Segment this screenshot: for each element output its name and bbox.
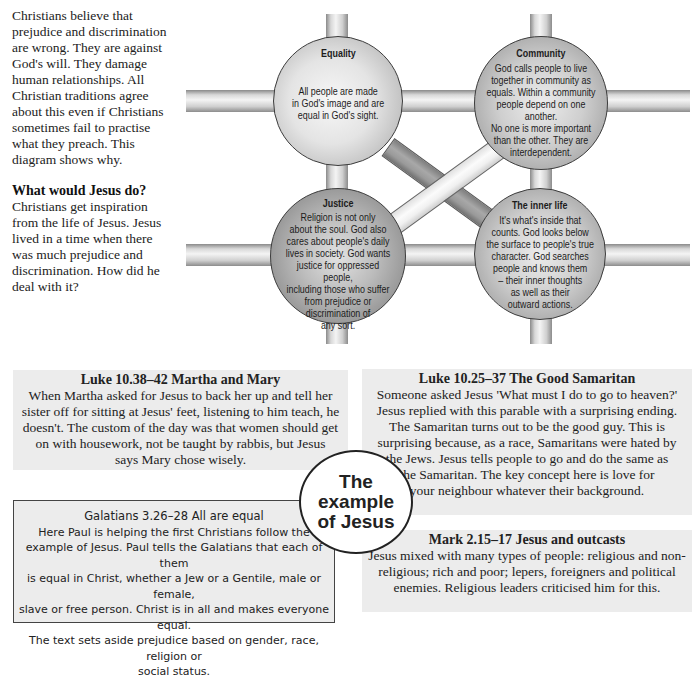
sphere-text: God calls people to live together in com… <box>485 62 597 158</box>
sphere-title: Equality <box>321 47 356 59</box>
box-heading: Galatians 3.26–28 All are equal <box>14 509 334 525</box>
sphere-text: Religion is not only about the soul. God… <box>281 211 395 331</box>
sphere-title: The inner life <box>512 199 568 211</box>
box-text: Jesus mixed with many types of people: r… <box>362 548 692 596</box>
box-galatians: Galatians 3.26–28 All are equal Here Pau… <box>13 500 335 623</box>
sphere-inner-life: The inner life It's what's inside that c… <box>474 188 606 320</box>
box-text: When Martha asked for Jesus to back her … <box>13 388 348 468</box>
box-heading: Luke 10.25–37 The Good Samaritan <box>362 371 692 387</box>
values-diagram: Equality All people are made in God's im… <box>0 0 693 360</box>
box-heading: Mark 2.15–17 Jesus and outcasts <box>362 532 692 548</box>
badge-label: The example of Jesus <box>317 472 394 532</box>
box-text: Here Paul is helping the first Christian… <box>14 525 334 679</box>
sphere-text: All people are made in God's image and a… <box>292 85 384 121</box>
box-heading: Luke 10.38–42 Martha and Mary <box>13 372 348 388</box>
box-jesus-and-outcasts: Mark 2.15–17 Jesus and outcasts Jesus mi… <box>362 530 692 612</box>
sphere-title: Community <box>516 47 565 59</box>
box-martha-and-mary: Luke 10.38–42 Martha and Mary When Marth… <box>13 370 348 470</box>
sphere-title: Justice <box>323 197 354 209</box>
sphere-justice: Justice Religion is not only about the s… <box>270 188 406 324</box>
sphere-community: Community God calls people to live toget… <box>474 36 608 170</box>
pipe-bottom-horizontal <box>186 244 690 266</box>
pipe-top-horizontal <box>186 90 690 112</box>
box-text: Someone asked Jesus 'What must I do to g… <box>362 387 692 499</box>
sphere-equality: Equality All people are made in God's im… <box>273 36 403 166</box>
example-of-jesus-badge: The example of Jesus <box>299 450 413 554</box>
sphere-text: It's what's inside that counts. God look… <box>486 214 593 310</box>
